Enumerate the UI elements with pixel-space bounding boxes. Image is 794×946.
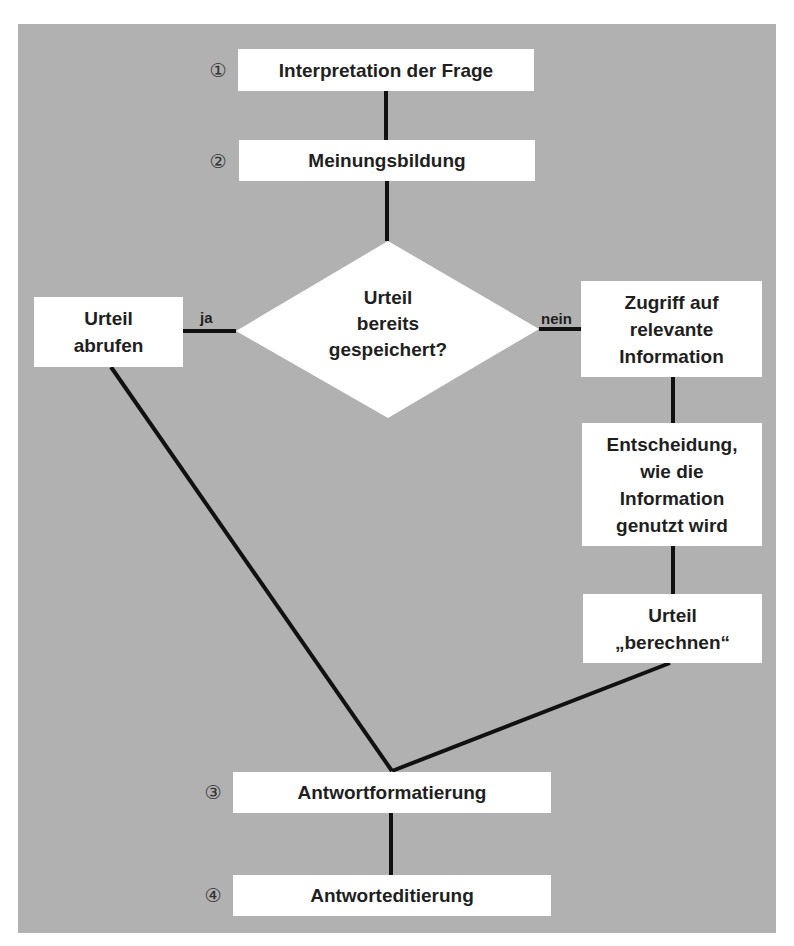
box-line: relevante xyxy=(619,316,724,343)
step-number-3: ③ xyxy=(203,782,223,802)
box-line: genutzt wird xyxy=(607,512,738,539)
box-line: Entscheidung, xyxy=(607,431,738,458)
box-line: „berechnen“ xyxy=(615,629,730,656)
step-box-antwortformatierung: Antwortformatierung xyxy=(233,772,551,813)
decision-line: gespeichert? xyxy=(290,337,486,363)
box-entscheidung: Entscheidung, wie die Information genutz… xyxy=(582,423,762,546)
step-label: Antwortformatierung xyxy=(298,779,487,806)
box-line: Zugriff auf xyxy=(619,289,724,316)
decision-line: Urteil xyxy=(290,285,486,311)
box-urteil-berechnen: Urteil „berechnen“ xyxy=(583,594,762,663)
box-zugriff-information: Zugriff auf relevante Information xyxy=(581,281,762,377)
box-urteil-abrufen: Urteil abrufen xyxy=(34,297,183,367)
box-line: wie die xyxy=(607,458,738,485)
decision-line: bereits xyxy=(290,311,486,337)
box-line: Information xyxy=(607,485,738,512)
branch-label-no: nein xyxy=(541,310,572,327)
step-label: Meinungsbildung xyxy=(308,147,465,174)
step-label: Interpretation der Frage xyxy=(279,57,493,84)
box-line: Urteil xyxy=(615,602,730,629)
branch-label-yes: ja xyxy=(200,309,213,326)
step-label: Antworteditierung xyxy=(310,882,474,909)
box-line: Urteil xyxy=(74,305,144,332)
step-number-2: ② xyxy=(208,151,228,171)
decision-text: Urteil bereits gespeichert? xyxy=(290,285,486,363)
step-number-1: ① xyxy=(208,60,228,80)
step-number-4: ④ xyxy=(203,885,223,905)
step-box-antworteditierung: Antworteditierung xyxy=(233,875,551,916)
box-line: abrufen xyxy=(74,332,144,359)
box-line: Information xyxy=(619,343,724,370)
step-box-interpretation: Interpretation der Frage xyxy=(238,49,534,91)
step-box-meinungsbildung: Meinungsbildung xyxy=(239,140,535,181)
